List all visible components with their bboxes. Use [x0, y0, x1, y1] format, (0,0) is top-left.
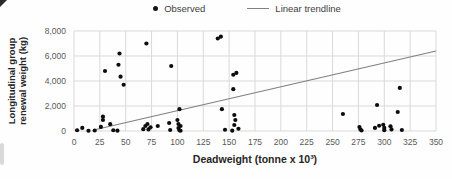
legend-trendline-label: Linear trendline [275, 3, 341, 14]
scatter-point [375, 103, 379, 107]
x-tick-label: 325 [397, 137, 423, 147]
scatter-point [103, 69, 107, 73]
scatter-point [156, 124, 160, 128]
y-tick-label: 8,000 [45, 26, 66, 36]
scatter-point [167, 121, 171, 125]
y-tick-label: 2,000 [45, 101, 66, 111]
y-tick-label: 4,000 [45, 76, 66, 86]
x-axis-title: Deadweight (tonne x 10³) [74, 153, 436, 165]
scatter-point [108, 122, 112, 126]
scatter-point [373, 126, 377, 130]
x-tick-label: 0 [61, 137, 87, 147]
scatter-point [116, 63, 120, 67]
scatter-point [234, 71, 238, 75]
x-tick-label: 300 [371, 137, 397, 147]
scatter-point [99, 125, 103, 129]
x-tick-label: 150 [216, 137, 242, 147]
scatter-point [220, 107, 224, 111]
x-tick-label: 225 [294, 137, 320, 147]
x-tick-label: 50 [113, 137, 139, 147]
scatter-point [178, 129, 182, 133]
scatter-point [168, 128, 172, 132]
scatter-point [101, 115, 105, 119]
scatter-point [175, 118, 179, 122]
x-tick-label: 25 [87, 137, 113, 147]
scatter-point [169, 64, 173, 68]
scatter-point [223, 128, 227, 132]
scatter-point [117, 51, 121, 55]
scatter-point [398, 86, 402, 90]
scatter-point [178, 124, 182, 128]
scatter-point [145, 122, 149, 126]
scatter-point [118, 75, 122, 79]
scatter-point [382, 128, 386, 132]
y-tick-label: 0 [61, 126, 66, 136]
x-tick-label: 350 [423, 137, 449, 147]
y-axis-title-line2: renewal weight (kg) [17, 11, 28, 151]
scatter-point [377, 124, 381, 128]
scatter-point [177, 107, 181, 111]
x-tick-label: 175 [242, 137, 268, 147]
y-tick-label: 6,000 [45, 51, 66, 61]
plot-area [74, 26, 436, 131]
scatter-point [75, 128, 79, 132]
scatter-point [231, 87, 235, 91]
scatter-point [148, 125, 152, 129]
x-tick-label: 75 [139, 137, 165, 147]
scatter-point [400, 128, 404, 132]
scatter-point [144, 41, 148, 45]
observed-dot-icon [153, 6, 158, 11]
scatter-point [232, 113, 236, 117]
scatter-point [359, 128, 363, 132]
scatter-point [219, 35, 223, 39]
legend-observed-label: Observed [164, 3, 205, 14]
y-axis-title-line1: Longitudinal group [6, 11, 17, 151]
scatter-point [111, 128, 115, 132]
x-tick-label: 125 [190, 137, 216, 147]
scan-artifact-smudge [0, 143, 4, 165]
scatter-point [236, 127, 240, 131]
legend-item-observed: Observed [153, 3, 205, 14]
scatter-point [93, 128, 97, 132]
scatter-point [122, 83, 126, 87]
x-tick-label: 275 [345, 137, 371, 147]
trendline-line-icon [247, 8, 269, 9]
scatter-point [341, 112, 345, 116]
scatter-point [80, 126, 84, 130]
scatter-point [396, 110, 400, 114]
legend-item-trendline: Linear trendline [247, 3, 341, 14]
x-tick-label: 100 [164, 137, 190, 147]
x-tick-label: 200 [268, 137, 294, 147]
scatter-point [233, 118, 237, 122]
scatter-point [389, 127, 393, 131]
scatter-point [232, 123, 236, 127]
x-tick-label: 250 [320, 137, 346, 147]
trend-line [95, 51, 436, 130]
scatter-point [230, 129, 234, 133]
y-axis-title: Longitudinal group renewal weight (kg) [2, 26, 32, 136]
chart-container: Observed Linear trendline Longitudinal g… [0, 0, 452, 179]
scatter-point [115, 129, 119, 133]
scatter-point [86, 129, 90, 133]
legend: Observed Linear trendline [0, 3, 452, 14]
